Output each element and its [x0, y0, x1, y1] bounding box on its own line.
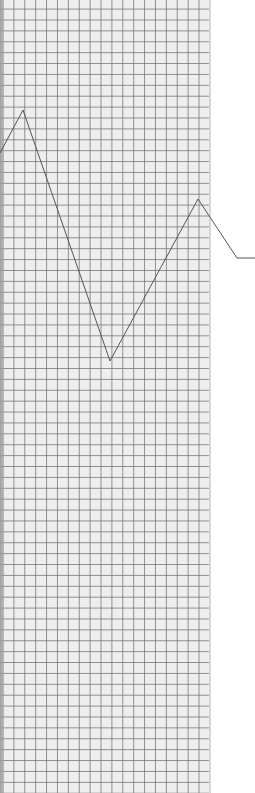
zigzag-line — [0, 110, 255, 361]
canvas — [0, 0, 255, 793]
drawing-layer — [0, 0, 255, 793]
